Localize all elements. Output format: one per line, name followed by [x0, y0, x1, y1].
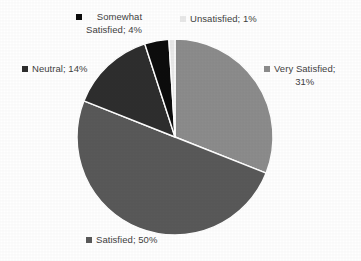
slice-label-text-neutral: Neutral; 14%	[32, 63, 88, 76]
legend-marker-unsatisfied	[180, 16, 186, 22]
slice-label-satisfied: Satisfied; 50%	[86, 234, 157, 247]
pie-slices	[77, 39, 273, 235]
slice-label-text-somewhat-satisfied: Somewhat Satisfied; 4%	[86, 11, 142, 36]
slice-label-text-very-satisfied: Very Satisfied; 31%	[274, 63, 335, 88]
slice-label-unsatisfied: Unsatisfied; 1%	[180, 13, 257, 26]
slice-label-somewhat-satisfied: Somewhat Satisfied; 4%	[76, 11, 142, 36]
slice-label-text-satisfied: Satisfied; 50%	[96, 234, 157, 247]
legend-marker-satisfied	[86, 237, 92, 243]
slice-label-very-satisfied: Very Satisfied; 31%	[264, 63, 335, 88]
pie-chart: Somewhat Satisfied; 4% Unsatisfied; 1% V…	[0, 0, 361, 261]
legend-marker-somewhat-satisfied	[76, 14, 82, 20]
pie-chart-canvas	[0, 0, 361, 261]
legend-marker-neutral	[22, 66, 28, 72]
legend-marker-very-satisfied	[264, 66, 270, 72]
slice-label-text-unsatisfied: Unsatisfied; 1%	[190, 13, 257, 26]
slice-label-neutral: Neutral; 14%	[22, 63, 88, 76]
